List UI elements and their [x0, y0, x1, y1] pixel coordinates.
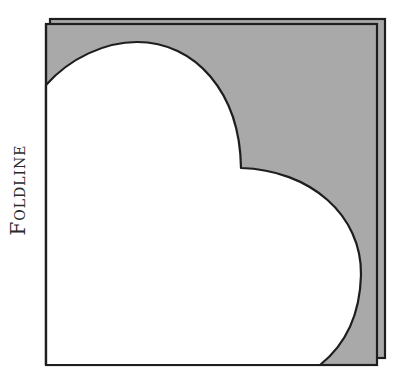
- foldline-label: Foldline: [3, 130, 33, 250]
- diagram-canvas: [0, 0, 405, 382]
- foldline-label-text: Foldline: [6, 144, 30, 235]
